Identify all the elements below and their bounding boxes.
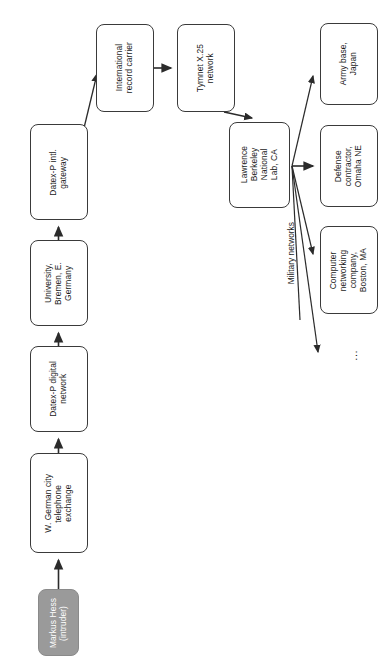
node-army-base-japan[interactable]: Army base, Japan	[320, 23, 378, 105]
edge-tymnet-to-lbl	[224, 112, 252, 118]
node-defense-contractor-omaha[interactable]: Defense contractor, Omaha NE	[320, 125, 378, 207]
node-international-record-carrier[interactable]: International record carrier	[96, 24, 154, 112]
edge-label-military-networks: Military networks	[286, 222, 296, 284]
node-computer-networking-boston[interactable]: Computer networking company, Boston, MA	[320, 226, 378, 314]
more-targets-ellipsis: ...	[347, 350, 359, 361]
node-label: Tymnet X.25 network	[196, 44, 216, 92]
node-label: Defense contractor, Omaha NE	[334, 145, 364, 187]
node-university-bremen[interactable]: University, Bremen, E. Germany	[30, 240, 88, 326]
node-label: International record carrier	[115, 42, 135, 93]
node-label: Markus Hess (intruder)	[49, 598, 69, 648]
edge-lbl-to-army-base	[292, 76, 313, 166]
node-datex-p-intl-gateway[interactable]: Datex-P intl. gateway	[30, 124, 88, 220]
node-markus-hess[interactable]: Markus Hess (intruder)	[38, 589, 79, 656]
node-label: Army base, Japan	[339, 42, 359, 85]
node-datex-p-digital-network[interactable]: Datex-P digital network	[30, 346, 88, 432]
node-label: Lawrence Berkeley National Lab, CA	[240, 146, 280, 183]
node-label: W. German city telephone exchange	[44, 474, 74, 533]
node-lawrence-berkeley-lab[interactable]: Lawrence Berkeley National Lab, CA	[229, 122, 290, 208]
node-tymnet-x25-network[interactable]: Tymnet X.25 network	[177, 24, 235, 112]
node-label: Datex-P intl. gateway	[49, 149, 69, 196]
node-label: Datex-P digital network	[49, 361, 69, 417]
node-telephone-exchange[interactable]: W. German city telephone exchange	[30, 453, 88, 553]
node-label: Computer networking company, Boston, MA	[329, 248, 369, 292]
diagram-canvas: Markus Hess (intruder) W. German city te…	[0, 0, 382, 664]
node-label: University, Bremen, E. Germany	[44, 262, 74, 305]
